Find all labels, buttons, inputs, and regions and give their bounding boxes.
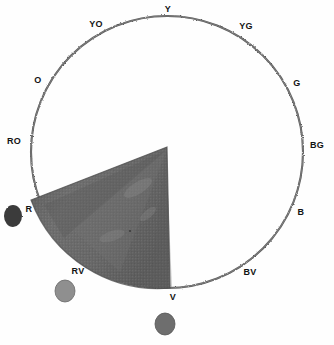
swatch-rv [55, 280, 75, 302]
hue-label-o: O [34, 75, 41, 85]
hue-label-v: V [170, 292, 176, 302]
shaded-sector [31, 147, 172, 288]
hue-label-yg: YG [239, 21, 253, 31]
hue-label-rv: RV [72, 266, 85, 276]
hue-label-y: Y [165, 4, 171, 14]
swatch-v [155, 313, 175, 335]
color-wheel-figure: Y YG G BG B BV V RV R RO O YO [0, 0, 334, 345]
hue-label-r: R [26, 204, 33, 214]
swatch-r [4, 205, 22, 227]
hue-label-g: G [293, 78, 300, 88]
hue-label-ro: RO [7, 136, 21, 146]
hue-label-b: B [298, 207, 305, 217]
color-wheel-canvas [0, 0, 334, 345]
hue-label-yo: YO [89, 19, 103, 29]
hue-label-bg: BG [310, 140, 324, 150]
hue-label-bv: BV [243, 267, 256, 277]
